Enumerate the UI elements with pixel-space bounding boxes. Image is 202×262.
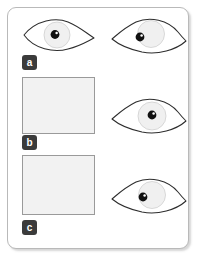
eye-icon	[110, 16, 188, 56]
right-column	[104, 8, 190, 250]
panel-label-c: c	[22, 220, 37, 235]
figure-root: a b c	[0, 0, 202, 262]
figure-card: a b c	[7, 7, 189, 249]
panel-label-a: a	[22, 55, 37, 70]
image-panel-b	[22, 155, 95, 215]
left-column: a b c	[8, 8, 104, 250]
eye-icon	[110, 176, 188, 216]
eye-icon	[22, 16, 96, 54]
eye-icon	[110, 96, 188, 136]
image-panel-a	[22, 77, 95, 134]
panel-label-b: b	[22, 135, 37, 150]
